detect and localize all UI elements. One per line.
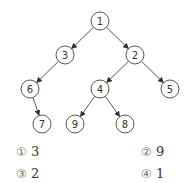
edge-4-9 <box>81 96 95 116</box>
option-1-marker: ① <box>16 145 27 159</box>
svg-text:8: 8 <box>122 119 128 130</box>
tree-nodes: 132645798 <box>21 12 179 133</box>
svg-text:3: 3 <box>62 50 68 61</box>
tree-node-7: 7 <box>33 115 51 133</box>
svg-text:2: 2 <box>132 50 138 61</box>
edge-6-7 <box>33 98 39 116</box>
tree-node-5: 5 <box>161 80 179 98</box>
binary-tree-diagram: 132645798 <box>0 0 190 140</box>
tree-node-3: 3 <box>56 46 74 64</box>
option-1[interactable]: ①3 <box>16 144 39 160</box>
svg-text:9: 9 <box>72 119 78 130</box>
tree-node-9: 9 <box>66 115 84 133</box>
edge-2-4 <box>107 61 129 82</box>
tree-node-8: 8 <box>116 115 134 133</box>
edge-1-2 <box>106 27 128 48</box>
tree-node-6: 6 <box>21 80 39 98</box>
tree-node-2: 2 <box>126 46 144 64</box>
option-2-marker: ② <box>141 145 152 159</box>
svg-text:6: 6 <box>27 84 33 95</box>
edge-4-8 <box>105 96 119 116</box>
option-3-value: 2 <box>31 166 39 181</box>
option-2[interactable]: ②9 <box>141 144 164 160</box>
option-4[interactable]: ④1 <box>141 166 164 182</box>
option-4-marker: ④ <box>141 167 152 181</box>
svg-text:1: 1 <box>97 16 103 27</box>
tree-edges <box>33 27 163 116</box>
svg-text:5: 5 <box>167 84 173 95</box>
option-3-marker: ③ <box>16 167 27 181</box>
option-2-value: 9 <box>156 144 164 159</box>
edge-1-3 <box>72 27 94 48</box>
svg-text:4: 4 <box>97 84 103 95</box>
edge-2-5 <box>141 61 163 82</box>
svg-text:7: 7 <box>39 119 45 130</box>
option-4-value: 1 <box>156 166 164 181</box>
option-3[interactable]: ③2 <box>16 166 39 182</box>
tree-node-4: 4 <box>91 80 109 98</box>
option-1-value: 3 <box>31 144 39 159</box>
edge-3-6 <box>37 61 59 82</box>
tree-node-1: 1 <box>91 12 109 30</box>
